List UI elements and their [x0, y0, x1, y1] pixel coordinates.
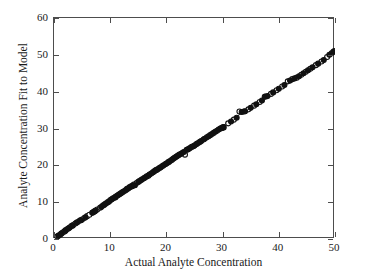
data-point-filled	[83, 215, 88, 220]
data-point-filled	[316, 61, 321, 66]
y-tick-40	[328, 92, 333, 93]
x-tick-label-50: 50	[314, 241, 354, 253]
data-point-filled	[282, 83, 287, 88]
x-axis-title: Actual Analyte Concentration	[53, 256, 334, 269]
x-tick-30	[223, 232, 224, 237]
data-point-filled	[254, 102, 259, 107]
x-tick-50	[335, 18, 336, 23]
plot-area	[53, 17, 334, 238]
data-point-filled	[310, 65, 315, 70]
y-axis-title: Analyte Concentration Fit to Model	[17, 10, 30, 242]
x-tick-label-20: 20	[145, 241, 185, 253]
x-tick-40	[279, 232, 280, 237]
data-point-filled	[276, 86, 281, 91]
data-point-filled	[331, 49, 335, 54]
x-tick-40	[279, 18, 280, 23]
data-point-filled	[243, 109, 248, 114]
x-tick-10	[110, 18, 111, 23]
y-tick-60	[328, 18, 333, 19]
x-tick-30	[223, 18, 224, 23]
data-point-filled	[271, 90, 276, 95]
data-point-filled	[234, 115, 239, 120]
y-tick-20	[54, 165, 59, 166]
y-tick-20	[328, 165, 333, 166]
y-tick-30	[54, 129, 59, 130]
scatter-plot-svg	[54, 18, 335, 239]
x-tick-50	[335, 232, 336, 237]
data-point-filled	[229, 119, 234, 124]
y-tick-10	[328, 202, 333, 203]
data-point-filled	[248, 105, 253, 110]
y-tick-0	[54, 239, 59, 240]
data-point-filled	[265, 94, 270, 99]
data-point-filled	[221, 125, 226, 130]
y-tick-10	[54, 202, 59, 203]
data-point-filled	[93, 208, 98, 213]
x-tick-0	[54, 232, 55, 237]
y-tick-30	[328, 129, 333, 130]
y-tick-60	[54, 18, 59, 19]
x-tick-label-10: 10	[89, 241, 129, 253]
x-tick-20	[166, 232, 167, 237]
x-tick-label-40: 40	[258, 241, 298, 253]
data-layer	[54, 18, 335, 239]
data-point-filled	[321, 57, 326, 62]
scatter-chart-figure: 01020304050 0102030405060 Actual Analyte…	[0, 0, 366, 279]
x-tick-label-30: 30	[202, 241, 242, 253]
y-tick-50	[328, 55, 333, 56]
y-tick-50	[54, 55, 59, 56]
x-tick-20	[166, 18, 167, 23]
series-filled-circle-observations	[56, 49, 335, 238]
y-tick-40	[54, 92, 59, 93]
x-tick-10	[110, 232, 111, 237]
y-tick-0	[328, 239, 333, 240]
